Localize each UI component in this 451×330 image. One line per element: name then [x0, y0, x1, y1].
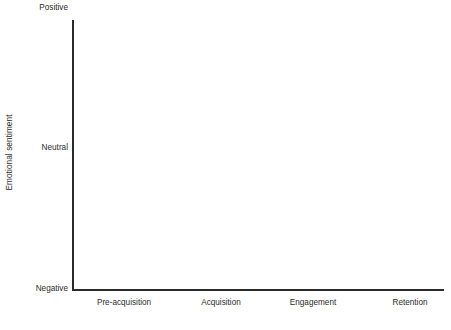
- x-axis-tick-pre-acquisition: Pre-acquisition: [97, 297, 151, 308]
- x-axis-line: [72, 289, 444, 291]
- y-axis-tick-neutral-label: Neutral: [42, 143, 68, 153]
- plot-area: [74, 20, 444, 289]
- y-axis-tick-positive-label: Positive: [39, 3, 68, 13]
- y-axis-title-label: Emotional sentiment: [5, 114, 14, 190]
- x-axis-tick-retention: Retention: [392, 297, 427, 308]
- y-axis-tick-negative-label: Negative: [36, 284, 68, 294]
- x-axis-tick-acquisition: Acquisition: [201, 297, 241, 308]
- x-axis-tick-engagement: Engagement: [290, 297, 336, 308]
- chart-figure: Emotional sentiment Positive Neutral Neg…: [0, 0, 451, 330]
- y-axis-title: Emotional sentiment: [2, 96, 16, 208]
